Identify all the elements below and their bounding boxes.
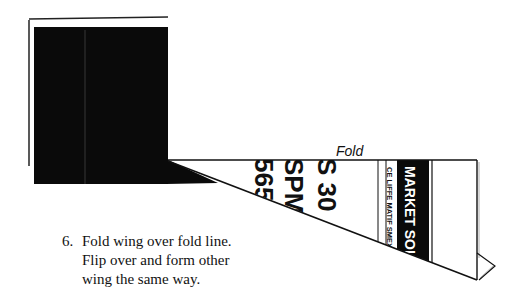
svg-text:MARKET SOLD: MARKET SOLD (402, 166, 418, 269)
wing-tip-flap (477, 253, 495, 280)
fold-diagram: 565 SPM S 30 CE LIFFE MATIF SMEX MARKET … (0, 0, 524, 302)
step-number: 6. (62, 232, 82, 251)
step-line-1: 6.Fold wing over fold line. (62, 232, 232, 251)
step-line-2: Flip over and form other (62, 251, 232, 270)
svg-text:S 30: S 30 (312, 158, 342, 212)
wing-print-large: 565 SPM S 30 (249, 158, 342, 214)
step-line-3: wing the same way. (62, 270, 232, 289)
fold-label: Fold (336, 143, 363, 159)
svg-text:CE LIFFE MATIF SMEX: CE LIFFE MATIF SMEX (385, 167, 394, 248)
svg-text:565: 565 (249, 158, 279, 201)
step-instructions: 6.Fold wing over fold line. Flip over an… (62, 232, 232, 289)
